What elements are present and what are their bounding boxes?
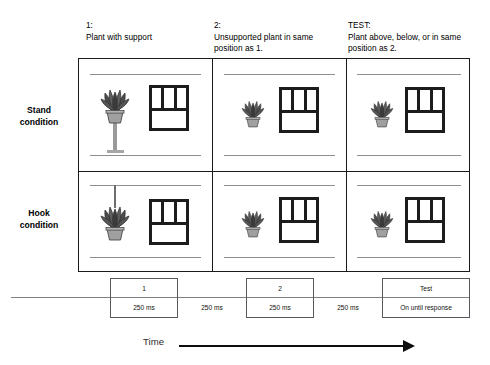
wall-line-bottom xyxy=(90,257,202,259)
cell-hook-test xyxy=(347,172,471,271)
plant-icon xyxy=(93,202,137,242)
timeline-gap-2: 250 ms xyxy=(314,297,382,318)
plant-unsupported xyxy=(236,96,270,130)
right-arrow-icon xyxy=(403,340,415,352)
timeline-event-test: Test On until response xyxy=(382,278,470,318)
window-mullion-vertical-1 xyxy=(417,90,420,110)
window-mullion-horizontal xyxy=(282,110,316,113)
time-axis-label: Time xyxy=(143,336,164,347)
wall-line-bottom xyxy=(224,155,336,157)
window-mullion-vertical-2 xyxy=(174,202,177,222)
plant-hanging-from-hook xyxy=(93,202,137,242)
timeline-event-2-duration: 250 ms xyxy=(247,298,313,317)
timeline-event-test-duration: On until response xyxy=(383,298,469,317)
window-mullion-vertical-2 xyxy=(304,90,307,110)
window-mullion-vertical-1 xyxy=(291,200,294,220)
row-label-hook-line2: condition xyxy=(2,220,76,232)
time-axis: Time xyxy=(0,332,490,358)
window-mullion-vertical-2 xyxy=(174,88,177,108)
timeline-gap-1-duration: 250 ms xyxy=(201,304,223,311)
column-header-test: TEST: Plant above, below, or in same pos… xyxy=(348,20,486,55)
row-label-hook-condition: Hook condition xyxy=(2,208,76,231)
window-6-pane xyxy=(279,197,319,243)
column-header-1-description: Plant with support xyxy=(86,32,206,44)
window-6-pane xyxy=(149,85,189,131)
row-label-stand-line1: Stand xyxy=(2,105,76,117)
window-mullion-vertical-1 xyxy=(417,200,420,220)
plant-supported-on-stand xyxy=(93,85,137,125)
window-mullion-vertical-2 xyxy=(430,200,433,220)
plant-unsupported xyxy=(365,96,399,130)
timeline-event-1-label: 1 xyxy=(111,279,177,298)
window-6-pane xyxy=(149,199,189,245)
window-mullion-vertical-2 xyxy=(430,90,433,110)
stand-pole xyxy=(113,121,117,151)
plant-icon xyxy=(365,206,399,240)
timeline-event-1-duration: 250 ms xyxy=(111,298,177,317)
wall-line-top xyxy=(224,185,336,187)
window-6-pane xyxy=(405,87,445,133)
window-mullion-horizontal xyxy=(152,222,186,225)
wall-line-bottom xyxy=(357,257,461,259)
timeline-gap-1: 250 ms xyxy=(178,297,246,318)
timeline-gap-2-duration: 250 ms xyxy=(337,304,359,311)
stimulus-grid xyxy=(78,58,470,272)
stand-base xyxy=(107,150,124,153)
timeline-event-1: 1 250 ms xyxy=(110,278,178,318)
window-6-pane xyxy=(279,87,319,133)
window-mullion-vertical-1 xyxy=(161,202,164,222)
wall-line-bottom xyxy=(90,155,202,157)
window-mullion-horizontal xyxy=(408,110,442,113)
column-header-test-number: TEST: xyxy=(348,20,486,32)
column-header-2-number: 2: xyxy=(214,20,340,32)
column-header-1-number: 1: xyxy=(86,20,206,32)
column-header-test-description: Plant above, below, or in same position … xyxy=(348,32,486,55)
cell-hook-2 xyxy=(213,172,346,271)
wall-line-top xyxy=(357,185,461,187)
figure-container: 1: Plant with support 2: Unsupported pla… xyxy=(0,0,490,365)
plant-icon xyxy=(236,206,270,240)
plant-unsupported xyxy=(365,206,399,240)
window-mullion-horizontal xyxy=(152,108,186,111)
cell-hook-1 xyxy=(79,172,212,271)
cell-stand-test xyxy=(347,59,471,171)
timeline-event-test-label: Test xyxy=(383,279,469,298)
wall-line-bottom xyxy=(357,155,461,157)
wall-line-bottom xyxy=(224,257,336,259)
wall-line-top xyxy=(90,185,202,187)
window-6-pane xyxy=(405,197,445,243)
timeline-event-2-label: 2 xyxy=(247,279,313,298)
cell-stand-2 xyxy=(213,59,346,171)
cell-stand-1 xyxy=(79,59,212,171)
plant-icon xyxy=(236,96,270,130)
column-header-2: 2: Unsupported plant in same position as… xyxy=(214,20,340,55)
plant-icon xyxy=(93,85,137,125)
column-header-1: 1: Plant with support xyxy=(86,20,206,43)
row-label-stand-line2: condition xyxy=(2,117,76,129)
row-label-stand-condition: Stand condition xyxy=(2,105,76,128)
row-label-hook-line1: Hook xyxy=(2,208,76,220)
window-mullion-vertical-1 xyxy=(161,88,164,108)
right-arrow-icon-shaft xyxy=(179,345,405,347)
trial-timeline: 1 250 ms 250 ms 2 250 ms 250 ms Test On … xyxy=(0,278,490,326)
column-header-2-description: Unsupported plant in same position as 1. xyxy=(214,32,340,55)
wall-line-top xyxy=(224,74,336,76)
timeline-event-2: 2 250 ms xyxy=(246,278,314,318)
window-mullion-vertical-2 xyxy=(304,200,307,220)
window-mullion-horizontal xyxy=(408,220,442,223)
plant-icon xyxy=(365,96,399,130)
window-mullion-horizontal xyxy=(282,220,316,223)
wall-line-top xyxy=(357,74,461,76)
window-mullion-vertical-1 xyxy=(291,90,294,110)
wall-line-top xyxy=(90,74,202,76)
plant-unsupported xyxy=(236,206,270,240)
